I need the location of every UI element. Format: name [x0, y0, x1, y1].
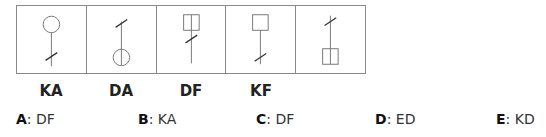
square-bottom-slash-top-icon [296, 6, 365, 73]
figure-cell-4 [226, 6, 296, 73]
circle-bottom-slash-top-icon [87, 6, 156, 73]
square-top-slash-bottom-icon [226, 6, 295, 73]
figure-cell-3 [157, 6, 227, 73]
figure-cell-2 [87, 6, 157, 73]
figure-label-3: DF [156, 82, 226, 100]
option-d[interactable]: D: ED [375, 111, 415, 127]
figure-label-1: KA [16, 82, 86, 100]
figure-label-2: DA [86, 82, 156, 100]
figure-label-4: KF [226, 82, 296, 100]
figure-cell-1 [17, 6, 87, 73]
option-c[interactable]: C: DF [256, 111, 294, 127]
square-top-slash-middle-icon [157, 6, 226, 73]
option-a[interactable]: A: DF [16, 111, 55, 127]
option-b[interactable]: B: KA [138, 111, 176, 127]
circle-top-slash-bottom-icon [17, 6, 86, 73]
figure-cell-5 [296, 6, 365, 73]
option-e[interactable]: E: KD [496, 111, 535, 127]
figure-strip [16, 5, 366, 74]
